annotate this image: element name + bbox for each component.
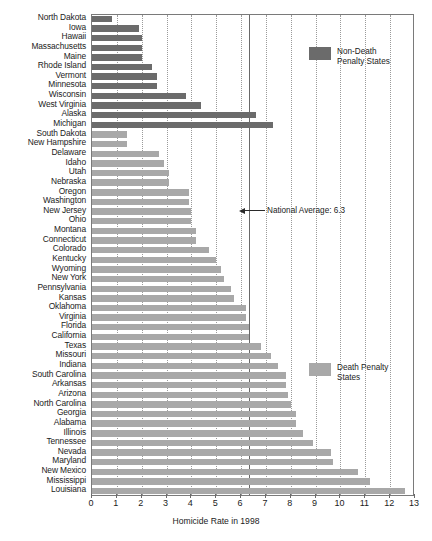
x-axis-title: Homicide Rate in 1998	[0, 516, 432, 526]
national-average-label: National Average: 6.3	[265, 206, 345, 215]
x-axis-ticks: 012345678910111213	[0, 498, 432, 512]
tick-label-0: 0	[79, 498, 103, 508]
tick-label-1: 1	[104, 498, 128, 508]
bar	[92, 45, 142, 51]
bar	[92, 228, 196, 234]
tick-label-10: 10	[327, 498, 351, 508]
bar	[92, 35, 142, 41]
bar	[92, 382, 286, 388]
bar	[92, 54, 142, 60]
tick-label-6: 6	[228, 498, 252, 508]
bar	[92, 112, 256, 118]
bar	[92, 430, 303, 436]
legend-label-death-penalty: Death Penalty States	[337, 363, 388, 383]
homicide-rate-bar-chart: North DakotaIowaHawaiiMassachusettsMaine…	[0, 0, 432, 541]
category-label: Louisiana	[0, 485, 86, 495]
bar	[92, 324, 249, 330]
bar	[92, 286, 231, 292]
bar	[92, 83, 157, 89]
bar	[92, 189, 189, 195]
bar	[92, 401, 291, 407]
bar	[92, 218, 191, 224]
tick-label-9: 9	[303, 498, 327, 508]
tick-label-8: 8	[278, 498, 302, 508]
legend-non-death-penalty: Non-Death Penalty States	[309, 47, 390, 67]
tick-label-13: 13	[402, 498, 426, 508]
bar	[92, 160, 164, 166]
bar	[92, 73, 157, 79]
bar	[92, 295, 234, 301]
bar	[92, 343, 261, 349]
tick-label-4: 4	[178, 498, 202, 508]
tick-label-12: 12	[377, 498, 401, 508]
tick-label-7: 7	[253, 498, 277, 508]
bar	[92, 93, 186, 99]
bar	[92, 411, 296, 417]
legend-label-non-death-penalty: Non-Death Penalty States	[337, 47, 390, 67]
bar	[92, 170, 169, 176]
bar-rows: North DakotaIowaHawaiiMassachusettsMaine…	[0, 14, 432, 496]
bar	[92, 16, 112, 22]
bar	[92, 208, 191, 214]
bar	[92, 151, 159, 157]
bar	[92, 131, 127, 137]
left-arrow-icon	[239, 207, 265, 214]
bar	[92, 102, 201, 108]
bar	[92, 469, 358, 475]
bar	[92, 237, 196, 243]
tick-label-11: 11	[352, 498, 376, 508]
tick-label-2: 2	[129, 498, 153, 508]
bar	[92, 488, 405, 494]
bar	[92, 179, 169, 185]
bar	[92, 305, 246, 311]
bar	[92, 199, 189, 205]
legend-swatch-non-death-penalty	[309, 47, 331, 60]
bar	[92, 392, 288, 398]
bar	[92, 25, 139, 31]
bar	[92, 449, 331, 455]
bar	[92, 363, 278, 369]
legend-death-penalty: Death Penalty States	[309, 363, 388, 383]
bar	[92, 459, 333, 465]
bar	[92, 122, 273, 128]
bar	[92, 353, 271, 359]
bar	[92, 372, 286, 378]
tick-label-3: 3	[154, 498, 178, 508]
bar	[92, 420, 296, 426]
bar	[92, 478, 370, 484]
national-average-annotation: National Average: 6.3	[239, 206, 345, 215]
bar	[92, 141, 127, 147]
bar	[92, 257, 216, 263]
tick-label-5: 5	[203, 498, 227, 508]
legend-swatch-death-penalty	[309, 363, 331, 376]
bar	[92, 314, 246, 320]
bar	[92, 266, 221, 272]
bar	[92, 276, 224, 282]
bar	[92, 440, 313, 446]
bar	[92, 64, 152, 70]
bar	[92, 334, 249, 340]
bar	[92, 247, 209, 253]
